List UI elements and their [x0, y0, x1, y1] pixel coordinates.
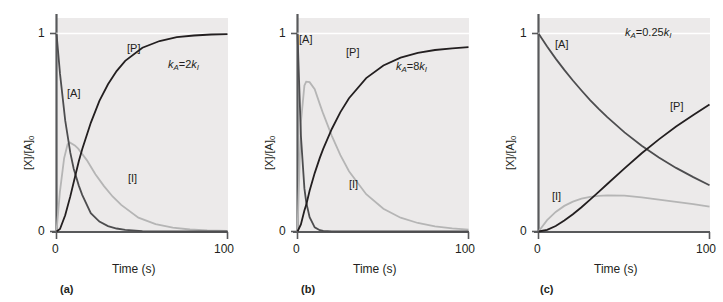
curve-label-A: [A]	[299, 33, 312, 45]
y-tick-label-bottom: 0	[520, 224, 527, 238]
y-tick-label-bottom: 0	[38, 224, 45, 238]
x-tick-label-right: 100	[214, 242, 234, 256]
y-axis-title-sub: 0	[509, 136, 518, 140]
panel-b-plot	[241, 0, 482, 302]
y-axis-title-sub: 0	[27, 136, 36, 140]
y-axis-title-main: [X]/[A]	[263, 140, 275, 170]
panel-b: 1 0 0 100 [X]/[A]0 Time (s) [A] [I] [P] …	[241, 0, 482, 302]
curve-label-A: [A]	[555, 38, 568, 50]
plot-area-background	[56, 18, 228, 231]
x-tick-label-right: 100	[455, 242, 475, 256]
panel-letter-b: (b)	[301, 283, 315, 295]
curve-label-P: [P]	[127, 42, 140, 54]
x-tick-label-left: 0	[52, 242, 59, 256]
rate-sub-I: I	[425, 65, 427, 74]
y-axis-title-main: [X]/[A]	[22, 140, 34, 170]
y-tick-label-top: 1	[38, 26, 45, 40]
figure-consecutive-reaction-kinetics: 1 0 0 100 [X]/[A]0 Time (s) [A] [I] [P] …	[0, 0, 723, 302]
x-axis-title: Time (s)	[112, 262, 156, 276]
y-tick-label-bottom: 0	[279, 224, 286, 238]
panel-a: 1 0 0 100 [X]/[A]0 Time (s) [A] [I] [P] …	[0, 0, 241, 302]
panel-a-plot	[0, 0, 241, 302]
y-tick-label-top: 1	[520, 26, 527, 40]
rate-sub-I: I	[197, 63, 199, 72]
x-tick-label-right: 100	[696, 242, 716, 256]
panel-letter-c: (c)	[540, 283, 553, 295]
y-axis-title: [X]/[A]0	[263, 136, 277, 170]
rate-constant-annotation: kA=2kI	[168, 58, 199, 72]
curve-label-I: [I]	[349, 178, 358, 190]
y-axis-title-sub: 0	[268, 136, 277, 140]
rate-constant-annotation: kA=0.25kI	[625, 26, 671, 40]
y-axis-title: [X]/[A]0	[504, 136, 518, 170]
rate-factor: 0.25	[642, 26, 663, 38]
panel-letter-a: (a)	[60, 283, 73, 295]
y-axis-title-main: [X]/[A]	[504, 140, 516, 170]
curve-label-P: [P]	[670, 100, 683, 112]
curve-label-I: [I]	[552, 190, 561, 202]
rate-constant-annotation: kA=8kI	[396, 60, 427, 74]
curve-label-I: [I]	[128, 172, 137, 184]
x-tick-label-left: 0	[293, 242, 300, 256]
x-axis-title: Time (s)	[594, 262, 638, 276]
rate-sub-I: I	[669, 31, 671, 40]
curve-label-P: [P]	[346, 46, 359, 58]
panel-c-plot	[482, 0, 723, 302]
x-axis-title: Time (s)	[353, 262, 397, 276]
x-tick-label-left: 0	[534, 242, 541, 256]
curve-label-A: [A]	[67, 87, 80, 99]
y-tick-label-top: 1	[279, 26, 286, 40]
panel-c: 1 0 0 100 [X]/[A]0 Time (s) [A] [I] [P] …	[482, 0, 723, 302]
y-axis-title: [X]/[A]0	[22, 136, 36, 170]
